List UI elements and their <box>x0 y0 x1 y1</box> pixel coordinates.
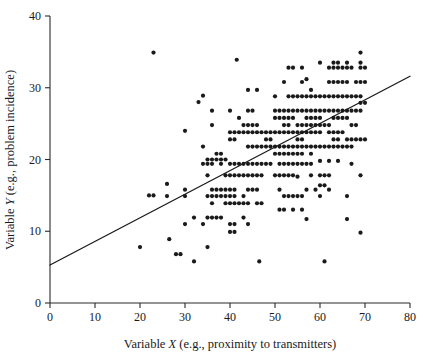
data-point <box>354 137 358 141</box>
data-point <box>295 137 299 141</box>
data-point <box>210 194 214 198</box>
data-point <box>309 94 313 98</box>
data-point <box>349 66 353 70</box>
data-point <box>214 216 218 220</box>
x-axis-tick-labels: 01020304050607080 <box>47 310 416 324</box>
data-point <box>246 173 250 177</box>
data-point <box>201 94 205 98</box>
data-point <box>345 116 349 120</box>
data-point <box>354 123 358 127</box>
data-point <box>250 123 254 127</box>
data-point <box>322 173 326 177</box>
data-point <box>358 137 362 141</box>
data-point <box>237 201 241 205</box>
data-point <box>277 130 281 134</box>
data-point <box>345 194 349 198</box>
data-point <box>241 216 245 220</box>
x-tick-label: 30 <box>179 310 191 324</box>
data-point <box>358 173 362 177</box>
data-point <box>219 194 223 198</box>
data-point <box>223 188 227 192</box>
data-point <box>277 152 281 156</box>
data-point <box>291 66 295 70</box>
data-point <box>291 144 295 148</box>
data-point <box>228 188 232 192</box>
data-point <box>277 109 281 113</box>
data-point <box>345 144 349 148</box>
y-tick-label: 10 <box>29 224 41 238</box>
data-point <box>246 130 250 134</box>
data-point <box>259 144 263 148</box>
data-point <box>327 130 331 134</box>
data-point <box>286 116 290 120</box>
scatter-plot-figure: 01020304050607080 010203040 Variable X (… <box>0 0 424 357</box>
data-point <box>336 116 340 120</box>
data-point <box>205 194 209 198</box>
data-point <box>304 217 308 221</box>
data-point <box>264 144 268 148</box>
data-point <box>318 116 322 120</box>
data-point <box>257 259 261 263</box>
data-point <box>300 123 304 127</box>
data-point <box>291 109 295 113</box>
data-point <box>304 109 308 113</box>
data-point <box>268 137 272 141</box>
data-point <box>358 109 362 113</box>
data-point <box>349 94 353 98</box>
data-point <box>246 109 250 113</box>
data-point <box>336 109 340 113</box>
data-point <box>300 94 304 98</box>
data-point <box>340 130 344 134</box>
data-point <box>232 130 236 134</box>
data-point <box>358 50 362 54</box>
data-point <box>201 144 205 148</box>
data-point <box>282 144 286 148</box>
axes-group <box>50 16 410 303</box>
data-point <box>165 182 169 186</box>
chart-canvas: 01020304050607080 010203040 Variable X (… <box>0 0 424 357</box>
data-point <box>219 216 223 220</box>
data-point <box>138 245 142 249</box>
data-point <box>273 173 277 177</box>
data-point <box>282 80 286 84</box>
data-point <box>228 173 232 177</box>
data-point <box>282 109 286 113</box>
data-point <box>178 252 182 256</box>
data-point <box>309 116 313 120</box>
data-point <box>300 162 304 166</box>
data-point <box>237 116 241 120</box>
data-point <box>331 80 335 84</box>
data-point <box>300 152 304 156</box>
data-point <box>318 61 322 65</box>
data-point <box>223 157 227 161</box>
data-point <box>309 173 313 177</box>
data-point <box>358 80 362 84</box>
y-tick-label: 40 <box>29 9 41 23</box>
data-point <box>309 162 313 166</box>
data-point <box>309 144 313 148</box>
data-point <box>259 162 263 166</box>
data-point <box>219 152 223 156</box>
data-point <box>214 194 218 198</box>
data-point <box>277 116 281 120</box>
data-point <box>259 130 263 134</box>
data-point <box>286 152 290 156</box>
data-point <box>250 173 254 177</box>
data-point <box>300 194 304 198</box>
data-point <box>313 116 317 120</box>
data-point <box>255 201 259 205</box>
data-point <box>228 130 232 134</box>
data-points-group <box>138 50 367 263</box>
data-point <box>286 66 290 70</box>
data-point <box>268 162 272 166</box>
data-point <box>255 162 259 166</box>
data-point <box>286 130 290 134</box>
data-point <box>201 222 205 226</box>
data-point <box>214 188 218 192</box>
data-point <box>291 208 295 212</box>
data-point <box>183 188 187 192</box>
data-point <box>327 123 331 127</box>
data-point <box>282 194 286 198</box>
data-point <box>363 80 367 84</box>
data-point <box>318 144 322 148</box>
